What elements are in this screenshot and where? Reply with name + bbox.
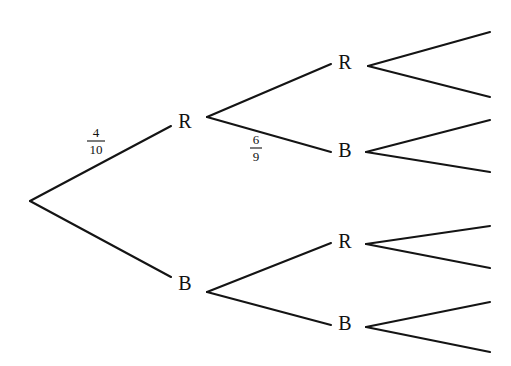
fraction-numerator-4: 4 (93, 125, 100, 140)
node-label-b-level2-first: B (338, 139, 351, 161)
diagram-background (0, 0, 511, 366)
fraction-numerator-6: 6 (253, 132, 260, 147)
fraction-denominator-9: 9 (253, 149, 260, 164)
fraction-denominator-10: 10 (90, 142, 103, 157)
probability-tree-diagram: R B R B R B 4 10 6 9 (0, 0, 511, 366)
node-label-r-level2-first: R (338, 51, 352, 73)
node-label-b-level2-second: B (338, 312, 351, 334)
node-label-b-level1: B (178, 272, 191, 294)
node-label-r-level1: R (178, 110, 192, 132)
node-label-r-level2-second: R (338, 230, 352, 252)
